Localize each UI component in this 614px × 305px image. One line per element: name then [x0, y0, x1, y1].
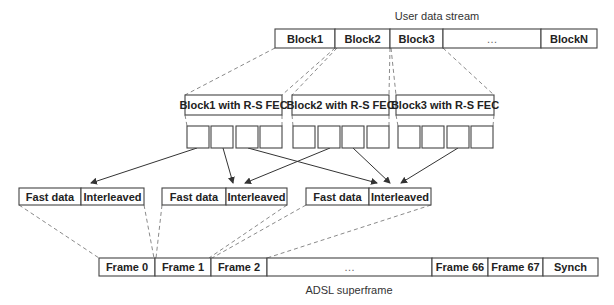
superframe-cell: …	[267, 258, 432, 276]
adsl-superframe-diagram: User data streamADSL superframeBlock1Blo…	[0, 0, 614, 305]
user-stream-block-label: …	[487, 33, 498, 45]
superframe-cell-label: Frame 66	[436, 261, 484, 273]
superframe-cell: Frame 1	[155, 258, 211, 276]
fec-sub-block	[422, 126, 444, 148]
superframe-cell-label: Frame 1	[162, 261, 204, 273]
superframe-cell-label: Frame 2	[218, 261, 260, 273]
user-stream-block-label: Block2	[344, 33, 380, 45]
superframe-cell: Synch	[543, 258, 598, 276]
fec-sub-block	[236, 126, 258, 148]
title-adsl-superframe: ADSL superframe	[305, 284, 392, 296]
dashed-connectors-bottom	[19, 205, 431, 258]
fec-block-label: Block3 with R-S FEC	[391, 99, 499, 111]
fec-block: Block1 with R-S FEC	[179, 95, 287, 115]
fec-block: Block2 with R-S FEC	[286, 95, 394, 115]
user-stream-block-label: BlockN	[550, 33, 588, 45]
superframe-cell-label: Frame 67	[491, 261, 539, 273]
user-stream-block: Block2	[335, 29, 390, 48]
user-stream-block: Block3	[390, 29, 443, 48]
fec-block-label: Block1 with R-S FEC	[179, 99, 287, 111]
frame-fast-data-label: Fast data	[313, 191, 362, 203]
fec-sub-block	[367, 126, 389, 148]
superframe-cell: Frame 66	[432, 258, 488, 276]
fec-block-label: Block2 with R-S FEC	[286, 99, 394, 111]
fec-sub-block	[471, 126, 493, 148]
frame-fast-data: Fast data	[162, 188, 226, 205]
frame-fast-data-label: Fast data	[170, 191, 219, 203]
fec-sub-block	[293, 126, 315, 148]
user-stream-block-label: Block1	[287, 33, 323, 45]
frame-interleaved-label: Interleaved	[227, 191, 285, 203]
frame-interleaved: Interleaved	[226, 188, 287, 205]
user-stream-block: …	[443, 29, 541, 48]
frame-interleaved: Interleaved	[81, 188, 144, 205]
fec-sub-block	[187, 126, 209, 148]
fec-sub-block	[318, 126, 340, 148]
frame-interleaved-label: Interleaved	[371, 191, 429, 203]
title-user-data-stream: User data stream	[395, 10, 479, 22]
frame-fast-data-label: Fast data	[26, 191, 75, 203]
frame-interleaved: Interleaved	[369, 188, 431, 205]
user-stream-block: BlockN	[541, 29, 597, 48]
frame-interleaved-label: Interleaved	[83, 191, 141, 203]
fec-sub-block	[342, 126, 364, 148]
interleave-arrows	[91, 148, 458, 183]
fec-sub-block	[211, 126, 233, 148]
superframe-cell-label: Frame 0	[106, 261, 148, 273]
user-stream-block-label: Block3	[398, 33, 434, 45]
dashed-connectors-fec	[185, 115, 494, 126]
superframe-cell-label: …	[344, 261, 355, 273]
superframe-cell-label: Synch	[554, 261, 587, 273]
fec-block: Block3 with R-S FEC	[391, 95, 499, 115]
superframe-cell: Frame 0	[99, 258, 155, 276]
user-stream-block: Block1	[275, 29, 335, 48]
frame-fast-data: Fast data	[306, 188, 369, 205]
dashed-connectors-top	[185, 48, 494, 95]
superframe-cell: Frame 2	[211, 258, 267, 276]
fec-sub-block	[447, 126, 469, 148]
frame-fast-data: Fast data	[19, 188, 81, 205]
fec-sub-block	[398, 126, 420, 148]
superframe-cell: Frame 67	[488, 258, 543, 276]
fec-sub-block	[260, 126, 282, 148]
